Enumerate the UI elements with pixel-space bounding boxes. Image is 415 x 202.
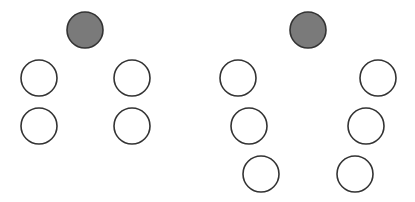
- empty-circle-left-2: [21, 108, 57, 144]
- empty-circle-right-1: [114, 60, 150, 96]
- empty-circle-left-3: [243, 156, 279, 192]
- filled-circle-apex: [290, 12, 326, 48]
- empty-circle-right-2: [348, 108, 384, 144]
- filled-circle-apex: [67, 12, 103, 48]
- empty-circle-left-1: [220, 60, 256, 96]
- empty-circle-left-2: [231, 108, 267, 144]
- empty-circle-right-1: [360, 60, 396, 96]
- right-arrangement: [220, 12, 396, 192]
- empty-circle-right-2: [114, 108, 150, 144]
- empty-circle-left-1: [21, 60, 57, 96]
- left-arrangement: [21, 12, 150, 144]
- empty-circle-right-3: [337, 156, 373, 192]
- diagram-canvas: [0, 0, 415, 202]
- circle-diagram: [0, 0, 415, 202]
